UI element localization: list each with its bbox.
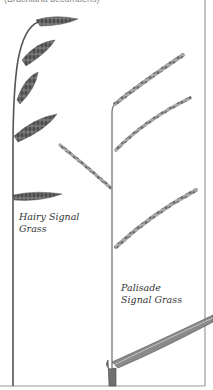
hairy-label-line1: Hairy Signal [19,211,79,223]
hairy-label-line2: Grass [19,223,79,235]
grass-illustration [0,0,213,390]
palisade-signal-grass-plant [60,55,213,386]
palisade-signal-grass-label: Palisade Signal Grass [121,282,182,306]
hairy-signal-grass-label: Hairy Signal Grass [19,211,79,235]
palisade-label-line2: Signal Grass [121,294,182,306]
palisade-label-line1: Palisade [121,282,182,294]
hairy-signal-grass-plant [13,17,78,386]
